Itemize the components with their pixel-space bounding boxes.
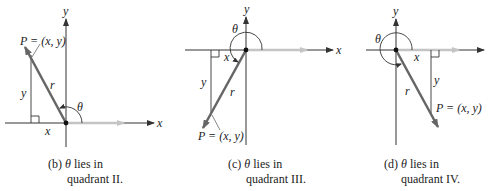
y-leg-label: y: [20, 86, 27, 100]
origin-point: [64, 121, 69, 126]
caption-line-2: quadrant IV.: [401, 172, 460, 186]
theta-label: θ: [375, 32, 381, 46]
caption-line-1: (c) θ lies in: [228, 157, 282, 171]
r-label: r: [230, 85, 235, 99]
y-axis-label: y: [392, 4, 399, 18]
figure-c-quadrant-iii: y x P = (x, y) y x r θ (c) θ lies in qua…: [185, 2, 342, 186]
point-leader: [212, 115, 220, 130]
caption-line-2: quadrant II.: [67, 172, 123, 186]
right-angle-marker: [31, 116, 39, 123]
y-axis-label: y: [243, 2, 250, 16]
caption-line-1: (d) θ lies in: [384, 157, 439, 171]
figure-b-quadrant-ii: y x P = (x, y) y x r θ (b) θ lies in qua…: [5, 4, 163, 186]
y-leg-label: y: [433, 73, 440, 87]
caption-line-2: quadrant III.: [246, 172, 306, 186]
origin-point: [394, 48, 399, 53]
point-p-label: P = (x, y): [435, 101, 482, 115]
x-leg-label: x: [44, 124, 51, 138]
y-leg-label: y: [200, 75, 207, 89]
figure-d-quadrant-iv: y P = (x, y) y x r θ (d) θ lies in quadr…: [366, 4, 484, 186]
angle-quadrant-diagrams: y x P = (x, y) y x r θ (b) θ lies in qua…: [0, 0, 490, 191]
theta-label: θ: [77, 100, 83, 114]
x-axis-label: x: [335, 43, 342, 57]
point-p-label: P = (x, y): [19, 34, 66, 48]
r-label: r: [405, 84, 410, 98]
y-axis-label: y: [62, 4, 69, 18]
x-leg-label: x: [223, 50, 230, 64]
caption-line-1: (b) θ lies in: [48, 157, 103, 171]
r-label: r: [50, 78, 55, 92]
x-leg-label: x: [413, 50, 420, 64]
point-p-label: P = (x, y): [197, 129, 244, 143]
origin-point: [244, 48, 249, 53]
right-angle-marker: [211, 50, 219, 57]
x-axis-label: x: [156, 116, 163, 130]
theta-label: θ: [232, 22, 238, 36]
